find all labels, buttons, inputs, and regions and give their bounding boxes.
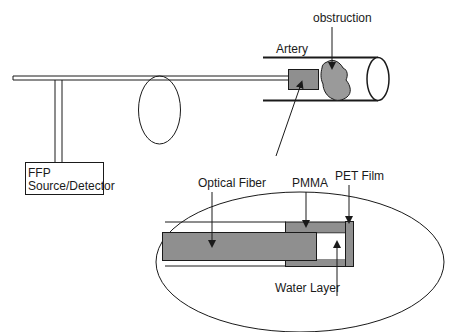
water-layer	[317, 234, 345, 260]
magnified-probe	[163, 222, 354, 267]
optical-fiber-core	[163, 233, 317, 261]
probe-tip	[289, 70, 319, 90]
pet-film	[346, 222, 354, 267]
ffp-label-line1: FFP	[28, 166, 51, 180]
pet-film-label: PET Film	[335, 169, 384, 183]
vertical-fiber	[55, 80, 62, 162]
water-layer-label: Water Layer	[275, 281, 340, 295]
magnify-leader-arrow	[276, 84, 301, 156]
fiber-loop	[139, 76, 181, 144]
fiber-probe-diagram: FFP Source/Detector Artery obstruction O…	[0, 0, 460, 332]
pmma-top	[286, 222, 346, 233]
ffp-source-detector-box: FFP Source/Detector	[26, 163, 115, 195]
obstruction-blob	[321, 60, 350, 100]
pmma-label: PMMA	[292, 176, 328, 190]
optical-fiber-label: Optical Fiber	[198, 176, 266, 190]
artery-label: Artery	[276, 42, 308, 56]
ffp-label-line2: Source/Detector	[28, 179, 115, 193]
obstruction-label: obstruction	[313, 11, 372, 25]
